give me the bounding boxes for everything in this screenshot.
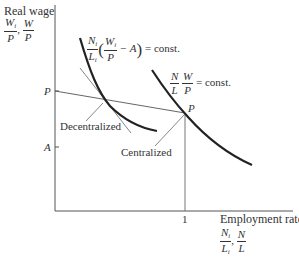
decentralized-label: Decentralized (60, 121, 121, 132)
centralized-curve-label: NL WP = const. (170, 71, 231, 96)
y-fraction-wi-p: Wi P (4, 17, 17, 44)
x-fraction-n-l: N L (237, 229, 246, 254)
centralized-label: Centralized (121, 147, 172, 158)
x-axis-variables: Ni Li , N L (220, 227, 246, 256)
wage-line (55, 91, 185, 113)
point-label-p: P (188, 103, 195, 114)
y-tick-label-p: P (44, 86, 51, 97)
decentralized-curve-label: NiLi(WiP − A) = const. (87, 35, 180, 64)
y-axis-variables: Wi P , W P (4, 17, 34, 44)
x-fraction-ni-li: Ni Li (220, 227, 231, 256)
centralized-leader (155, 115, 184, 146)
y-tick-label-a: A (44, 142, 51, 153)
x-tick-label-1: 1 (182, 214, 188, 225)
decentralized-leader (86, 103, 103, 121)
y-fraction-w-p: W P (23, 18, 34, 43)
x-axis-title: Employment rate (220, 213, 299, 225)
